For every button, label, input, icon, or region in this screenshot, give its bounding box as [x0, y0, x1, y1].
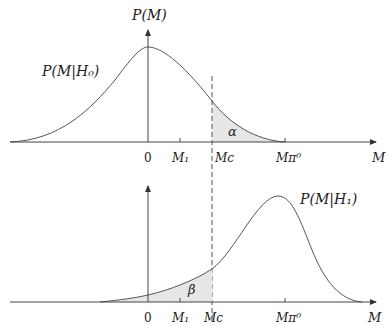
- top-x-label: M: [371, 150, 386, 165]
- top-tick-0: 0: [144, 151, 152, 165]
- beta-label: β: [187, 282, 196, 297]
- h1-label: P(M|H₁): [299, 191, 357, 208]
- bottom-panel: P(M|H₁) β 0 M₁ Mc Mπ⁰ M: [10, 186, 382, 325]
- top-tick-mc: Mc: [214, 151, 234, 165]
- alpha-region: [212, 101, 285, 142]
- hypothesis-test-diagram: P(M) P(M|H₀) α 0 M₁ Mc Mπ⁰ M P(M|H₁) β 0…: [0, 0, 392, 328]
- top-tick-mpi: Mπ⁰: [275, 151, 301, 165]
- h1-curve: [100, 196, 362, 302]
- alpha-label: α: [228, 124, 237, 139]
- bottom-tick-0: 0: [144, 311, 152, 325]
- bottom-x-label: M: [367, 310, 382, 325]
- h0-label: P(M|H₀): [41, 63, 99, 80]
- top-panel: P(M) P(M|H₀) α 0 M₁ Mc Mπ⁰ M: [10, 7, 386, 165]
- bottom-tick-mc: Mc: [203, 311, 223, 325]
- top-tick-m1: M₁: [171, 151, 189, 165]
- bottom-tick-m1: M₁: [171, 311, 189, 325]
- top-y-label: P(M): [131, 7, 167, 23]
- bottom-tick-mpi: Mπ⁰: [275, 311, 301, 325]
